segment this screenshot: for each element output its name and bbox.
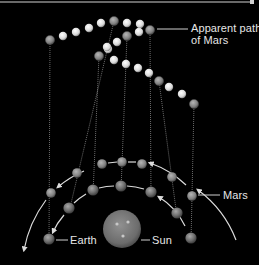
apparent-path-of-mars bbox=[45, 16, 198, 108]
apparent-position-dot bbox=[85, 24, 93, 32]
earth-orbit-arc-top2 bbox=[99, 186, 114, 188]
earth-orbit-arc-top bbox=[127, 186, 144, 189]
mars-orbit-position bbox=[97, 159, 107, 169]
mars-apparent-position bbox=[45, 35, 54, 44]
earth-orbit-arc-far-left bbox=[53, 215, 64, 232]
sight-line bbox=[150, 30, 151, 196]
mars-orbit-position bbox=[72, 168, 82, 178]
mars-apparent-position bbox=[145, 25, 154, 34]
earth-label: Earth bbox=[70, 234, 97, 246]
mars-orbit-position bbox=[137, 159, 147, 169]
mars-apparent-position bbox=[154, 76, 163, 85]
apparent-position-dot bbox=[178, 90, 186, 98]
mars-orbit-arc-mid bbox=[150, 163, 186, 185]
sight-line bbox=[159, 81, 177, 217]
apparent-position-dot bbox=[103, 43, 111, 51]
sun-label: Sun bbox=[152, 234, 172, 246]
apparent-path-label-line1: Apparent path bbox=[191, 22, 259, 34]
mars-apparent-position bbox=[94, 51, 103, 60]
apparent-position-dot bbox=[135, 28, 143, 36]
apparent-position-dot bbox=[123, 19, 131, 27]
mars-orbit-position bbox=[167, 172, 177, 182]
sun bbox=[103, 210, 141, 248]
mars-label: Mars bbox=[223, 189, 248, 201]
apparent-position-dot bbox=[59, 32, 67, 40]
mars-orbit-position bbox=[46, 188, 56, 198]
apparent-position-dot bbox=[134, 64, 142, 72]
border-endcap bbox=[250, 0, 254, 4]
apparent-position-dot bbox=[145, 69, 153, 77]
orbit-planets bbox=[43, 157, 196, 248]
mars-orbit-arc-top2 bbox=[108, 162, 117, 163]
earth-orbit-position bbox=[115, 180, 126, 191]
earth-orbit-position bbox=[63, 202, 74, 213]
earth-orbit-arc-left bbox=[74, 194, 86, 203]
sight-line bbox=[93, 56, 99, 194]
apparent-position-dot bbox=[136, 20, 144, 28]
apparent-position-dot bbox=[110, 56, 118, 64]
mars-orbit-position bbox=[117, 157, 127, 167]
mars-orbit-arc-far-left bbox=[24, 200, 46, 250]
earth-orbit-position bbox=[87, 184, 98, 195]
mars-orbit-position bbox=[187, 191, 197, 201]
earth-orbit-position bbox=[43, 233, 54, 244]
mars-apparent-position bbox=[122, 31, 131, 40]
apparent-path-label-line2: of Mars bbox=[191, 34, 228, 46]
earth-orbit-position bbox=[185, 232, 196, 243]
earth-orbit-position bbox=[171, 207, 182, 218]
apparent-position-dot bbox=[113, 38, 121, 46]
sun-spot bbox=[115, 222, 118, 225]
apparent-position-dot bbox=[72, 28, 80, 36]
mars-retrograde-diagram: Apparent path of Mars Mars Earth Sun bbox=[0, 0, 259, 265]
sight-line bbox=[49, 40, 50, 243]
apparent-position-dot bbox=[165, 83, 173, 91]
apparent-position-dot bbox=[122, 60, 130, 68]
earth-orbit-position bbox=[145, 186, 156, 197]
mars-apparent-position bbox=[109, 16, 118, 25]
mars-apparent-position bbox=[189, 99, 198, 108]
apparent-position-dot bbox=[97, 19, 105, 27]
sight-line bbox=[121, 36, 127, 190]
sun-spot bbox=[126, 220, 129, 223]
sun-spot bbox=[121, 234, 124, 237]
sight-line bbox=[191, 104, 194, 242]
